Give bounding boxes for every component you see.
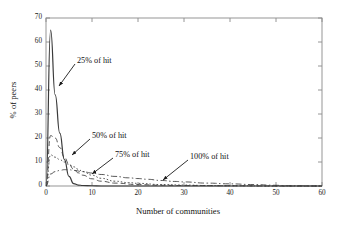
x-tick-label: 30 — [170, 190, 198, 197]
annotation-arrows — [59, 64, 188, 180]
annotation-arrow — [72, 139, 90, 155]
x-axis-title: Number of communities — [0, 206, 356, 216]
y-tick-label: 30 — [16, 110, 42, 117]
x-tick-label: 60 — [308, 190, 336, 197]
y-tick-label: 70 — [16, 14, 42, 21]
annotation-label: 75% of hit — [115, 150, 150, 159]
y-tick-label: 50 — [16, 62, 42, 69]
annotation-label: 100% of hit — [190, 152, 229, 161]
x-tick-label: 20 — [124, 190, 152, 197]
annotation-label: 25% of hit — [77, 56, 112, 65]
annotation-arrow — [163, 160, 188, 180]
x-tick-label: 10 — [78, 190, 106, 197]
y-tick-label: 0 — [16, 182, 42, 189]
y-tick-label: 40 — [16, 86, 42, 93]
chart-canvas — [0, 0, 356, 233]
series-line — [46, 155, 322, 186]
series-line — [46, 136, 322, 186]
y-axis-title: % of peers — [8, 65, 18, 135]
x-tick-label: 40 — [216, 190, 244, 197]
x-tick-label: 0 — [32, 190, 60, 197]
annotation-arrow — [92, 158, 113, 174]
y-axis-ticks — [46, 18, 322, 186]
annotation-arrow — [59, 64, 75, 86]
figure: 010203040506070 0102030405060 25% of hit… — [0, 0, 356, 233]
y-tick-label: 10 — [16, 158, 42, 165]
x-tick-label: 50 — [262, 190, 290, 197]
y-tick-label: 20 — [16, 134, 42, 141]
data-series-layer — [46, 30, 322, 186]
x-axis-ticks — [46, 18, 322, 186]
annotation-label: 50% of hit — [92, 131, 127, 140]
axis-frame — [46, 18, 322, 186]
y-tick-label: 60 — [16, 38, 42, 45]
series-line — [46, 30, 322, 186]
